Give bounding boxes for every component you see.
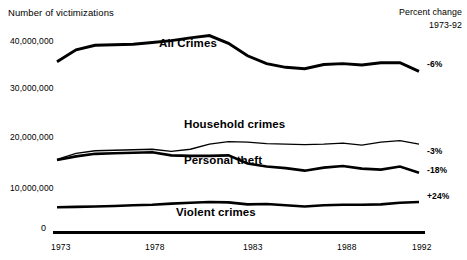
line-personal-theft xyxy=(57,152,419,172)
line-household-crimes xyxy=(57,141,419,160)
line-violent-crimes xyxy=(57,202,419,207)
victimization-trend-chart: Number of victimizations Percent change … xyxy=(0,0,467,260)
plot-area xyxy=(0,0,467,260)
line-all-crimes xyxy=(57,36,419,72)
